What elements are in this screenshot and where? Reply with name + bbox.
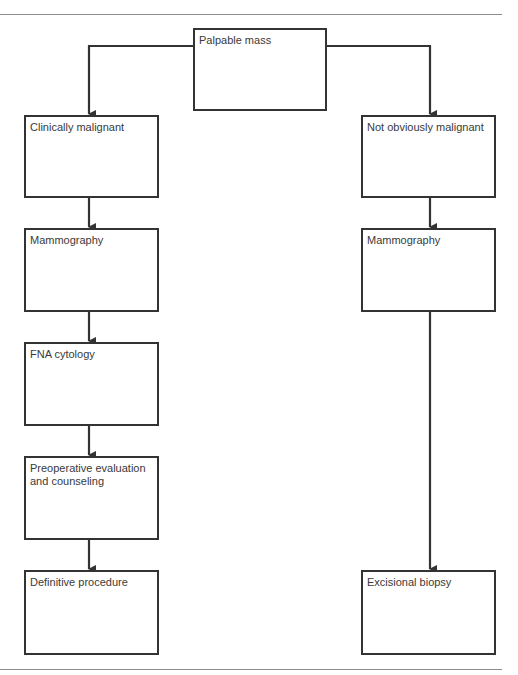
node-definitive-procedure: Definitive procedure (24, 570, 159, 655)
node-mammography-right: Mammography (361, 228, 496, 312)
node-fna-cytology: FNA cytology (24, 342, 159, 426)
node-label: Not obviously malignant (367, 121, 494, 134)
node-label: Clinically malignant (30, 121, 157, 134)
edge-root-to-clinically-malignant (89, 46, 193, 114)
node-palpable-mass: Palpable mass (193, 28, 327, 111)
node-not-obviously-malignant: Not obviously malignant (361, 115, 496, 198)
node-mammography-left: Mammography (24, 228, 159, 312)
node-label: Mammography (30, 234, 157, 247)
node-clinically-malignant: Clinically malignant (24, 115, 159, 198)
node-label: Palpable mass (199, 34, 325, 47)
node-label: FNA cytology (30, 348, 157, 361)
edge-root-to-not-obviously-malignant (326, 46, 430, 114)
node-label: Mammography (367, 234, 494, 247)
node-label: Definitive procedure (30, 576, 157, 589)
node-label: Preoperative evaluation and counseling (30, 462, 157, 488)
node-label: Excisional biopsy (367, 576, 494, 589)
node-excisional-biopsy: Excisional biopsy (361, 570, 496, 655)
node-preoperative-evaluation: Preoperative evaluation and counseling (24, 456, 159, 540)
